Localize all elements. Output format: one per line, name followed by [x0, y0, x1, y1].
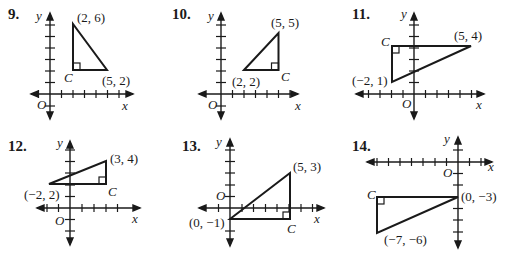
vertex-label: (−7, −6) [384, 232, 427, 247]
vertex-label-c: C [64, 70, 73, 85]
y-axis-label: y [399, 6, 407, 21]
problem-number: 13. [182, 138, 201, 155]
x-axis-label: x [121, 98, 128, 113]
vertex-label-c: C [108, 184, 117, 199]
origin-label: O [37, 97, 47, 112]
problem-number: 11. [352, 6, 370, 23]
coordinate-graph: y x O (2, 6) (5, 2) C [0, 0, 170, 135]
vertex-label: (3, 4) [110, 151, 138, 166]
problem-9: 9. [0, 0, 170, 135]
vertex-label: (−2, 2) [24, 187, 60, 202]
vertex-label: (2, 2) [232, 74, 260, 89]
x-axis-label: x [313, 211, 320, 226]
origin-label: O [443, 165, 453, 180]
origin-label: O [55, 213, 65, 228]
vertex-label: (0, −3) [461, 189, 497, 204]
vertex-label: (5, 4) [454, 28, 482, 43]
x-axis-label: x [294, 98, 301, 113]
vertex-label: (2, 6) [77, 10, 105, 25]
y-axis-label: y [442, 131, 450, 146]
problem-number: 12. [8, 138, 27, 155]
x-axis-label: x [487, 159, 494, 174]
vertex-label: (5, 5) [271, 15, 299, 30]
vertex-label-c: C [287, 221, 296, 236]
vertex-label-c: C [281, 69, 290, 84]
x-axis-label: x [475, 97, 482, 112]
origin-label: O [208, 97, 218, 112]
y-axis-label: y [34, 8, 42, 23]
vertex-label-c: C [381, 34, 390, 49]
vertex-label: (−2, 1) [352, 73, 388, 88]
x-axis-label: x [131, 211, 138, 226]
origin-label: O [216, 188, 226, 203]
vertex-label: (0, −1) [189, 215, 225, 230]
problem-number: 10. [172, 6, 191, 23]
origin-label: O [402, 96, 412, 111]
vertex-label-c: C [367, 187, 376, 202]
vertex-label: (5, 3) [293, 159, 321, 174]
vertex-label: (5, 2) [102, 73, 130, 88]
y-axis-label: y [206, 8, 214, 23]
y-axis-label: y [214, 134, 222, 149]
y-axis-label: y [55, 135, 63, 150]
problem-number: 14. [352, 138, 371, 155]
